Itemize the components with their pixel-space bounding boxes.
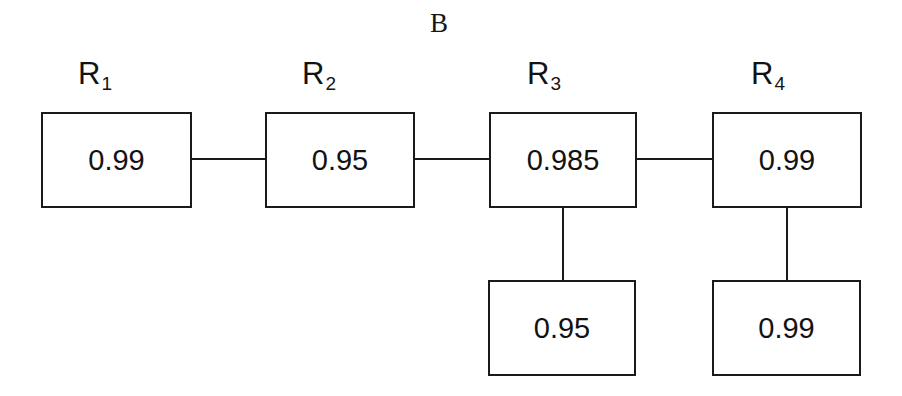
- connector-r3-parallel: [562, 206, 564, 282]
- connector-r2-r3: [413, 158, 491, 160]
- block-label-r4-base: R: [751, 56, 773, 91]
- block-value-parallel-r3: 0.95: [534, 314, 590, 343]
- block-box-parallel-r3: 0.95: [488, 280, 636, 376]
- block-box-r2: 0.95: [265, 112, 415, 208]
- block-value-parallel-r4: 0.99: [758, 314, 814, 343]
- block-label-r1-subscript: 1: [101, 73, 112, 94]
- block-label-r3: R3: [527, 58, 560, 89]
- block-box-r1: 0.99: [41, 112, 192, 208]
- block-box-r4: 0.99: [712, 112, 862, 208]
- block-box-r3: 0.985: [489, 112, 637, 208]
- block-label-r2-subscript: 2: [325, 73, 336, 94]
- block-value-r2: 0.95: [312, 146, 368, 175]
- block-value-r3: 0.985: [527, 146, 600, 175]
- block-label-r1: R1: [78, 58, 111, 89]
- block-label-r2-base: R: [302, 56, 324, 91]
- diagram-title: B: [430, 10, 448, 37]
- block-value-r4: 0.99: [759, 146, 815, 175]
- block-label-r4-subscript: 4: [774, 73, 785, 94]
- block-value-r1: 0.99: [88, 146, 144, 175]
- connector-r4-parallel: [786, 206, 788, 282]
- connector-r3-r4: [635, 158, 714, 160]
- block-label-r2: R2: [302, 58, 335, 89]
- block-box-parallel-r4: 0.99: [712, 280, 861, 376]
- block-label-r3-subscript: 3: [550, 73, 561, 94]
- block-label-r4: R4: [751, 58, 784, 89]
- connector-r1-r2: [190, 158, 267, 160]
- block-label-r1-base: R: [78, 56, 100, 91]
- block-label-r3-base: R: [527, 56, 549, 91]
- diagram-canvas: B R1 R2 R3 R4 0.99 0.95 0.985 0.99 0.95 …: [0, 0, 902, 396]
